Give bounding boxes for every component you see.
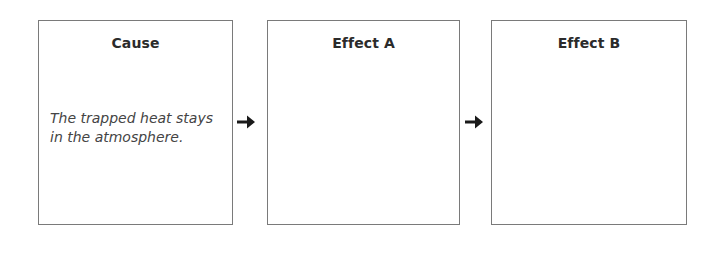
effect-a-box: Effect A [267, 20, 460, 225]
effect-b-box: Effect B [491, 20, 687, 225]
right-arrow-icon [464, 114, 484, 130]
cause-box: Cause The trapped heat stays in the atmo… [38, 20, 233, 225]
right-arrow-icon [236, 114, 256, 130]
effect-a-box-title: Effect A [268, 35, 459, 51]
effect-b-box-title: Effect B [492, 35, 686, 51]
cause-box-title: Cause [39, 35, 232, 51]
cause-box-body: The trapped heat stays in the atmosphere… [50, 109, 224, 147]
